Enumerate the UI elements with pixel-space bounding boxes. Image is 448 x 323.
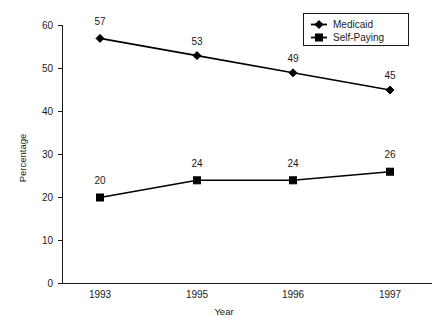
legend-item-self-paying[interactable]: Self-Paying: [311, 32, 384, 43]
y-tick-label: 60: [42, 20, 54, 31]
square-marker: [387, 168, 394, 175]
data-label: 53: [191, 36, 203, 47]
y-tick-label: 40: [42, 106, 54, 117]
x-tick-label: 1993: [89, 289, 112, 300]
x-tick-label: 1996: [282, 289, 305, 300]
square-marker: [97, 194, 104, 201]
y-axis-title: Percentage: [17, 134, 28, 183]
square-marker: [290, 177, 297, 184]
data-label: 57: [94, 16, 106, 27]
data-label: 45: [384, 70, 396, 81]
x-tick-label: 1995: [186, 289, 209, 300]
legend: Medicaid Self-Paying: [304, 14, 409, 46]
y-tick-label: 20: [42, 192, 54, 203]
legend-label-medicaid: Medicaid: [333, 19, 373, 30]
chart-background: [0, 0, 448, 323]
legend-label-self-paying: Self-Paying: [333, 32, 384, 43]
line-chart: 60 50 40 30 20 10 0 Percentage 1993 1995…: [0, 0, 448, 323]
chart-canvas: 60 50 40 30 20 10 0 Percentage 1993 1995…: [0, 0, 448, 323]
data-label: 26: [384, 149, 396, 160]
x-axis-title: Year: [214, 306, 233, 317]
square-marker: [194, 177, 201, 184]
y-tick-label: 0: [47, 278, 53, 289]
data-label: 20: [94, 175, 106, 186]
square-icon: [316, 34, 323, 41]
x-tick-label: 1997: [379, 289, 402, 300]
data-label: 49: [287, 53, 299, 64]
data-label: 24: [287, 158, 299, 169]
y-tick-label: 30: [42, 149, 54, 160]
data-label: 24: [191, 158, 203, 169]
y-tick-label: 10: [42, 235, 54, 246]
y-tick-label: 50: [42, 63, 54, 74]
